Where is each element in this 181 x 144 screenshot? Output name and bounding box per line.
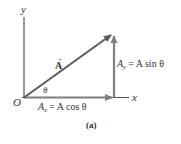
x-component-label: Ax= A cos θ — [37, 101, 87, 114]
vector-components-diagram: y x O → A θ Ax= A cos θ Ay= A sin θ (a) — [0, 0, 181, 144]
x-axis-label: x — [131, 91, 137, 103]
origin-label: O — [13, 96, 21, 108]
figure-caption: (a) — [86, 120, 97, 130]
angle-label: θ — [43, 85, 48, 95]
vector-a-arrow — [24, 35, 111, 98]
y-axis-label: y — [20, 3, 26, 15]
vector-label: A — [55, 60, 63, 71]
y-component-label: Ay= A sin θ — [116, 58, 164, 71]
